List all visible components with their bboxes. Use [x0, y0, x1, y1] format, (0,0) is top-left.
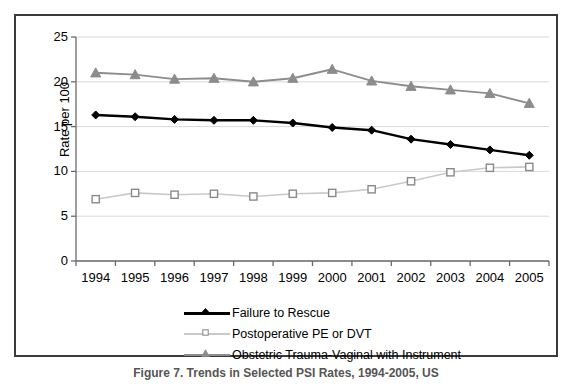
data-point-square: [289, 190, 296, 197]
legend-sample-triangle: [184, 348, 230, 362]
legend-sample-square: [184, 327, 230, 341]
series-triangle: [91, 64, 535, 107]
data-point-square: [407, 178, 414, 185]
data-point-triangle: [327, 64, 337, 73]
data-point-square: [329, 189, 336, 196]
legend-marker-square-icon: [201, 328, 210, 337]
x-tick-label: 1998: [231, 270, 275, 285]
data-point-square: [171, 191, 178, 198]
y-tick-label: 10: [34, 163, 68, 178]
data-point-square: [203, 329, 208, 334]
y-tick-label: 15: [34, 119, 68, 134]
data-point-diamond: [210, 116, 218, 124]
y-tick-label: 0: [34, 253, 68, 268]
data-point-diamond: [525, 151, 533, 159]
data-point-triangle: [202, 349, 210, 356]
data-point-diamond: [131, 113, 139, 121]
legend-marker-diamond-icon: [201, 307, 210, 316]
legend-label: Obstetric Trauma-Vaginal with Instrument: [230, 348, 461, 362]
series-diamond: [92, 111, 534, 159]
series-line: [96, 69, 530, 103]
x-tick-label: 1996: [153, 270, 197, 285]
x-tick-label: 2000: [310, 270, 354, 285]
data-point-diamond: [368, 126, 376, 134]
x-tick-label: 2002: [389, 270, 433, 285]
data-point-diamond: [249, 116, 257, 124]
chart-legend: Failure to RescuePostoperative PE or DVT…: [16, 302, 560, 365]
legend-item[interactable]: Failure to Rescue: [16, 302, 560, 323]
legend-item[interactable]: Postoperative PE or DVT: [16, 323, 560, 344]
data-point-diamond: [486, 146, 494, 154]
data-point-diamond: [289, 119, 297, 127]
data-point-diamond: [203, 308, 209, 314]
x-tick-label: 1997: [192, 270, 236, 285]
y-tick-label: 5: [34, 208, 68, 223]
data-point-diamond: [446, 141, 454, 149]
series-square: [92, 163, 533, 202]
data-point-square: [92, 196, 99, 203]
data-point-square: [368, 186, 375, 193]
x-tick-label: 1995: [113, 270, 157, 285]
data-point-diamond: [92, 111, 100, 119]
y-tick-label: 25: [34, 29, 68, 44]
x-tick-label: 2001: [350, 270, 394, 285]
x-tick-label: 2003: [428, 270, 472, 285]
figure-root: Rate per 100 2520151050 1994199519961997…: [0, 0, 572, 384]
x-tick-label: 1994: [74, 270, 118, 285]
data-point-square: [250, 193, 257, 200]
data-point-square: [210, 190, 217, 197]
legend-item[interactable]: Obstetric Trauma-Vaginal with Instrument: [16, 344, 560, 365]
legend-label: Postoperative PE or DVT: [230, 327, 372, 341]
legend-marker-triangle-icon: [201, 349, 210, 358]
x-tick-label: 2004: [468, 270, 512, 285]
chart-frame: Rate per 100 2520151050 1994199519961997…: [14, 14, 558, 357]
data-point-diamond: [171, 115, 179, 123]
x-tick-label: 2005: [507, 270, 551, 285]
data-point-square: [486, 164, 493, 171]
data-point-square: [526, 163, 533, 170]
y-tick-label: 20: [34, 74, 68, 89]
legend-label: Failure to Rescue: [230, 306, 330, 320]
figure-caption: Figure 7. Trends in Selected PSI Rates, …: [0, 366, 572, 384]
data-point-diamond: [328, 123, 336, 131]
data-point-square: [132, 189, 139, 196]
data-point-diamond: [407, 135, 415, 143]
x-tick-label: 1999: [271, 270, 315, 285]
legend-sample-diamond: [184, 306, 230, 320]
series-line: [96, 115, 530, 155]
data-point-square: [447, 169, 454, 176]
